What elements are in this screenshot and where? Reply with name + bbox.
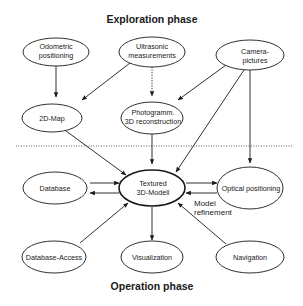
edge-2dmap-to-textured <box>62 128 126 175</box>
node-textured-3d-modell: Textured 3D-Modell <box>119 170 185 206</box>
svg-text:3D reconstruction: 3D reconstruction <box>125 117 181 126</box>
node-ultrasonic-measurements: Ultrasonic measurements <box>119 37 185 67</box>
svg-text:Photogramm.: Photogramm. <box>131 108 174 117</box>
svg-text:3D-Modell: 3D-Modell <box>137 188 170 197</box>
node-navigation: Navigation <box>216 241 284 273</box>
node-visualization: Visualization <box>121 241 183 273</box>
svg-text:Ultrasonic: Ultrasonic <box>136 42 168 51</box>
svg-text:Odometric: Odometric <box>39 42 73 51</box>
svg-text:pictures: pictures <box>242 56 268 65</box>
node-2d-map: 2D-Map <box>22 104 82 132</box>
operation-phase-title: Operation phase <box>111 280 194 292</box>
node-camera-pictures: Camera- pictures <box>216 40 284 70</box>
svg-text:Navigation: Navigation <box>233 253 267 262</box>
svg-text:Optical positioning: Optical positioning <box>222 184 281 193</box>
svg-text:Camera-: Camera- <box>241 47 270 56</box>
node-database-access: Database-Access <box>22 241 86 273</box>
exploration-phase-title: Exploration phase <box>106 13 197 25</box>
node-photogramm-3d-reconstruction: Photogramm. 3D reconstruction <box>121 102 183 134</box>
node-database: Database <box>23 172 87 204</box>
diagram-canvas: Exploration phase Operation phase Odomet… <box>0 0 303 306</box>
model-refinement-label-1: Model <box>194 199 216 208</box>
svg-text:Visualization: Visualization <box>132 253 172 262</box>
edge-ultrasonic-to-2dmap <box>82 63 130 100</box>
node-optical-positioning: Optical positioning <box>217 167 283 209</box>
svg-text:positioning: positioning <box>39 51 73 60</box>
svg-text:2D-Map: 2D-Map <box>39 114 65 123</box>
svg-text:Database-Access: Database-Access <box>26 253 83 262</box>
edge-camera-to-textured <box>176 67 246 172</box>
edge-camera-to-photogramm <box>178 65 226 100</box>
svg-text:Database: Database <box>40 184 71 193</box>
svg-text:measurements: measurements <box>128 51 176 60</box>
model-refinement-label-2: refinement <box>194 208 233 217</box>
node-odometric-positioning: Odometric positioning <box>23 38 89 66</box>
edge-dbaccess-to-textured <box>80 203 128 243</box>
svg-text:Textured: Textured <box>139 179 167 188</box>
